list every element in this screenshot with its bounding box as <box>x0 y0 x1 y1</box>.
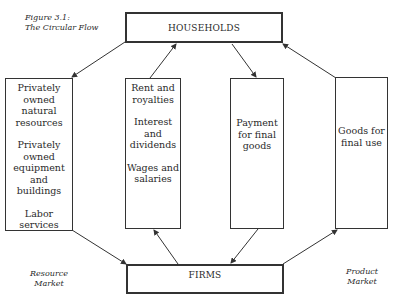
households-label: HOUSEHOLDS <box>168 23 240 33</box>
figure-caption: Figure 3.1: The Circular Flow <box>25 13 98 33</box>
goods-label: Goods for final use <box>337 125 387 148</box>
resources-box: Privately owned natural resources Privat… <box>5 78 73 231</box>
product-market-label: Product Market <box>344 267 380 287</box>
households-box: HOUSEHOLDS <box>125 12 283 43</box>
firms-box: FIRMS <box>126 264 284 294</box>
resource-market-label: Resource Market <box>30 269 68 289</box>
product-market-line1: Product <box>344 267 380 277</box>
income-rent: Rent and royalties <box>126 82 180 105</box>
resource-market-line1: Resource <box>30 269 68 279</box>
resource-natural: Privately owned natural resources <box>9 82 69 128</box>
income-wages: Wages and salaries <box>126 162 180 185</box>
goods-box: Goods for final use <box>335 77 388 229</box>
payment-label: Payment for final goods <box>232 117 282 152</box>
figure-title: The Circular Flow <box>25 23 98 33</box>
product-market-line2: Market <box>344 277 380 287</box>
resource-equipment: Privately owned equipment and buildings <box>9 139 69 197</box>
income-box: Rent and royalties Interest and dividend… <box>125 78 181 229</box>
payment-box: Payment for final goods <box>230 78 284 229</box>
income-interest: Interest and dividends <box>126 116 180 151</box>
resource-market-line2: Market <box>30 279 68 289</box>
resource-labor: Labor services <box>14 208 64 231</box>
figure-number: Figure 3.1: <box>25 13 98 23</box>
firms-label: FIRMS <box>189 270 222 280</box>
